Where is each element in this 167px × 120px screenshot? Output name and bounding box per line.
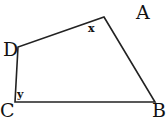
angle-label-y: y [16, 88, 24, 101]
quadrilateral-diagram: A B C D x y [0, 0, 167, 120]
vertex-label-d: D [3, 38, 18, 60]
vertex-label-b: B [152, 99, 166, 120]
angle-label-x: x [88, 22, 95, 35]
vertex-label-a: A [135, 1, 150, 23]
quadrilateral-abcd [15, 17, 155, 102]
vertex-label-c: C [0, 99, 15, 120]
